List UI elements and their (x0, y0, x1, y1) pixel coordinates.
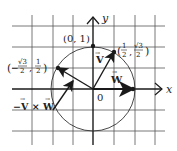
svg-text:W: W (110, 74, 123, 85)
svg-text:2: 2 (36, 67, 40, 75)
svg-text:): ) (145, 45, 149, 58)
svg-text:−V × W: −V × W (13, 101, 54, 112)
point-p1 (112, 50, 116, 54)
svg-text:1: 1 (122, 42, 126, 50)
vector-cross (53, 81, 73, 110)
point-top (91, 44, 95, 48)
vector-w-label: → W (110, 68, 123, 85)
svg-text:2: 2 (122, 51, 126, 59)
svg-text:(: ( (117, 45, 121, 58)
x-axis-label: x (166, 83, 173, 96)
svg-text:,: , (129, 46, 132, 57)
svg-text:,: , (29, 62, 32, 73)
point-p2-label: ( − √3 2 , 1 2 ) (7, 58, 47, 75)
y-axis-label: y (101, 12, 109, 25)
svg-text:V: V (95, 54, 104, 65)
point-w (131, 87, 135, 91)
point-top-label: (0, 1) (63, 33, 90, 44)
svg-text:): ) (43, 62, 47, 75)
svg-text:√3: √3 (18, 58, 27, 66)
point-p1-label: ( 1 2 , √3 2 ) (117, 42, 149, 59)
svg-text:1: 1 (36, 58, 40, 66)
vector-p2 (58, 68, 93, 89)
svg-text:√3: √3 (134, 42, 143, 50)
vector-cross-label: → → −V × W (13, 95, 54, 112)
unit-circle-vector-diagram: y x 0 (0, 1) ( 1 2 , √3 2 ) ( − √3 2 , 1… (0, 0, 177, 151)
point-p2 (56, 66, 60, 70)
svg-text:2: 2 (20, 67, 24, 75)
origin-label: 0 (97, 92, 103, 103)
svg-text:2: 2 (136, 51, 140, 59)
vector-v-label: → V (95, 49, 104, 65)
